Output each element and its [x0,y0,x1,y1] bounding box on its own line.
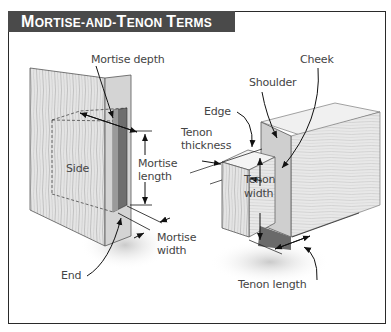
label-tenon-width-2: width [244,188,273,200]
label-mortise-depth: Mortise depth [91,54,165,66]
mortise-post [30,68,131,246]
mortise-tenon-illustration [0,0,391,332]
label-tenon-thickness-1: Tenon [181,127,212,139]
label-mortise-width-2: width [157,245,186,257]
label-edge: Edge [204,106,231,118]
label-cheek: Cheek [300,54,334,66]
label-mortise-width-1: Mortise [157,232,196,244]
label-tenon-width-1: Tenon [244,174,275,186]
label-end: End [61,270,81,282]
label-mortise-length-1: Mortise [138,158,177,170]
label-side: Side [66,163,89,175]
label-mortise-length-2: length [138,171,172,183]
label-shoulder: Shoulder [249,77,296,89]
label-tenon-length: Tenon length [238,279,306,291]
label-tenon-thickness-2: thickness [181,140,231,152]
